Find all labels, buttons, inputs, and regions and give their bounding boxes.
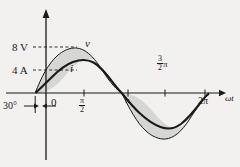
label-phase-30deg: 30°: [3, 100, 17, 111]
origin-arrow-left-head: [42, 103, 47, 108]
label-pi: π: [125, 95, 130, 105]
label-curve-v: v: [85, 37, 90, 49]
shaded-region-positive: [35, 48, 121, 93]
label-8v: 8 V: [12, 41, 28, 53]
label-x-axis-omega-t: ωt: [225, 93, 234, 103]
three-pi-over-2-pi-symbol: π: [163, 59, 168, 69]
label-two-pi: 2π: [198, 95, 208, 106]
label-pi-over-2: π 2: [79, 95, 85, 114]
label-4a: 4 A: [12, 64, 28, 76]
label-origin: 0: [51, 96, 57, 108]
phase-arrow-right-head: [34, 103, 39, 108]
label-three-pi-over-2: 3 2 π: [157, 55, 168, 72]
waveform-figure: [0, 0, 240, 167]
pi-over-2-denominator: 2: [79, 106, 85, 114]
y-axis-arrowhead: [43, 9, 50, 18]
label-curve-i: i: [70, 62, 73, 74]
